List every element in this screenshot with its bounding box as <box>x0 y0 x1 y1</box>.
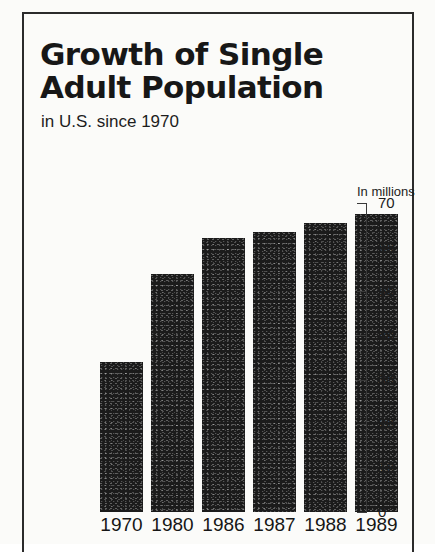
bar <box>202 238 245 512</box>
x-axis-tick-label: 1980 <box>147 514 198 536</box>
x-axis-tick-label: 1989 <box>351 514 402 536</box>
y-axis-tick <box>357 468 367 469</box>
y-axis-tick-end <box>357 203 367 204</box>
y-axis-tick-label: 40 <box>378 326 395 343</box>
y-axis-tick-label: 30 <box>378 371 395 388</box>
bar <box>304 223 347 512</box>
x-axis-tick-label: 1987 <box>249 514 300 536</box>
y-axis-tick-label: 50 <box>378 282 395 299</box>
y-axis-tick-end <box>357 512 367 513</box>
y-axis-tick-label: 0 <box>378 503 386 520</box>
y-axis-tick-label: 20 <box>378 415 395 432</box>
bar <box>253 232 296 512</box>
y-axis-tick <box>357 380 367 381</box>
y-axis-tick <box>357 335 367 336</box>
y-axis-line <box>366 203 367 513</box>
y-axis-tick-label: 10 <box>378 459 395 476</box>
x-axis-tick-label: 1988 <box>300 514 351 536</box>
y-axis-tick <box>357 424 367 425</box>
x-axis-tick-label: 1986 <box>198 514 249 536</box>
x-axis-tick-label: 1970 <box>96 514 147 536</box>
y-axis-tick <box>357 247 367 248</box>
y-axis-tick-label: 70 <box>378 194 395 211</box>
bar <box>100 362 143 512</box>
bar <box>151 274 194 512</box>
y-axis-tick-label: 60 <box>378 238 395 255</box>
y-axis-tick <box>357 291 367 292</box>
